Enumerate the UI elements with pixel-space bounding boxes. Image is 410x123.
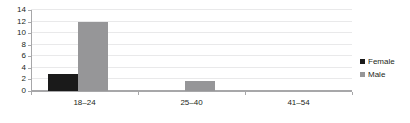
legend-label-female: Female bbox=[368, 58, 395, 66]
y-tick-label: 8 bbox=[2, 41, 26, 49]
legend-item-male: Male bbox=[360, 68, 410, 81]
x-tick-mark bbox=[138, 92, 139, 95]
y-tick-label: 14 bbox=[2, 6, 26, 14]
y-tick-mark bbox=[28, 68, 31, 69]
y-tick-mark bbox=[28, 45, 31, 46]
legend-item-female: Female bbox=[360, 55, 410, 68]
legend-swatch-female-square-icon bbox=[360, 59, 365, 64]
y-tick-label: 12 bbox=[2, 18, 26, 26]
y-tick-mark bbox=[28, 91, 31, 92]
y-axis-tick-labels: 02468101214 bbox=[0, 0, 26, 123]
x-tick-mark bbox=[245, 92, 246, 95]
bar-male-0 bbox=[78, 22, 108, 91]
bar-female-0 bbox=[48, 74, 78, 91]
y-tick-mark bbox=[28, 56, 31, 57]
y-tick-label: 2 bbox=[2, 75, 26, 83]
legend-swatch-male-square-icon bbox=[360, 72, 365, 77]
bar-male-1 bbox=[185, 81, 215, 91]
bars-layer bbox=[31, 10, 352, 91]
y-tick-mark bbox=[28, 79, 31, 80]
x-axis-line bbox=[31, 91, 352, 92]
y-tick-mark bbox=[28, 33, 31, 34]
y-tick-mark bbox=[28, 10, 31, 11]
x-tick-label: 18–24 bbox=[31, 98, 138, 107]
bar-chart: 02468101214 18–2425–4041–54 Female Male bbox=[0, 0, 410, 123]
y-tick-label: 10 bbox=[2, 29, 26, 37]
x-tick-label: 25–40 bbox=[138, 98, 245, 107]
y-tick-label: 0 bbox=[2, 87, 26, 95]
x-tick-mark bbox=[31, 92, 32, 95]
y-tick-label: 6 bbox=[2, 52, 26, 60]
x-tick-mark bbox=[352, 92, 353, 95]
y-tick-mark bbox=[28, 22, 31, 23]
legend-label-male: Male bbox=[368, 71, 385, 79]
chart-legend: Female Male bbox=[360, 55, 410, 81]
y-tick-label: 4 bbox=[2, 64, 26, 72]
x-tick-label: 41–54 bbox=[245, 98, 352, 107]
